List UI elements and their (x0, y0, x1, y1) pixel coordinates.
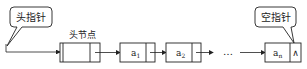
node-an-sub: n (278, 52, 282, 59)
head-node (60, 43, 100, 62)
null-pointer-label: 空指针 (261, 11, 291, 23)
node-a1: a1 (120, 43, 155, 62)
head-pointer-arrow (6, 44, 60, 52)
ellipsis: … (223, 46, 233, 57)
null-symbol: ∧ (292, 48, 299, 58)
null-pointer-callout: 空指针 (255, 7, 296, 43)
node-a1-sub: 1 (136, 52, 140, 59)
head-node-label: 头节点 (69, 30, 96, 40)
node-a2: a2 (166, 43, 201, 62)
head-pointer-callout: 头指针 (7, 7, 52, 46)
linked-list-diagram: 头指针 头节点 a1 a2 … an ∧ (0, 0, 307, 69)
node-a2-sub: 2 (181, 52, 185, 59)
node-an: an ∧ (265, 43, 301, 62)
head-pointer-label: 头指针 (16, 11, 46, 23)
